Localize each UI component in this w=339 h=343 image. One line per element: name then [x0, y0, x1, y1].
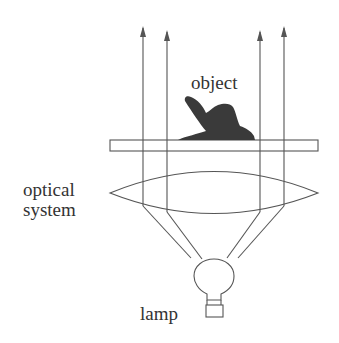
- label-object: object: [191, 72, 238, 93]
- label-lamp: lamp: [140, 303, 178, 324]
- lamp: [194, 259, 234, 317]
- lens: [110, 172, 318, 214]
- arrow-head-icon: [140, 26, 146, 37]
- label-system: system: [23, 199, 76, 220]
- optical-diagram: object optical system lamp: [0, 0, 339, 343]
- object-plate: [110, 140, 318, 151]
- lamp-base: [206, 305, 223, 317]
- bulb-icon: [194, 259, 234, 300]
- arrow-head-icon: [164, 30, 170, 41]
- label-optical: optical: [23, 179, 75, 200]
- object-silhouette: [178, 96, 255, 140]
- arrow-head-icon: [257, 30, 263, 41]
- arrow-head-icon: [281, 26, 287, 37]
